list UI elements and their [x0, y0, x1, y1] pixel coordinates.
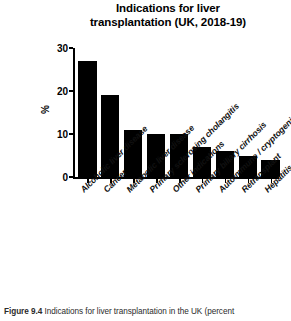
- y-axis-tick-label: 10: [57, 129, 68, 140]
- chart-title: Indications for liver transplantation (U…: [48, 2, 288, 29]
- figure-container: Indications for liver transplantation (U…: [0, 0, 291, 321]
- y-axis-line: [73, 48, 75, 177]
- y-axis-tick: [69, 47, 74, 49]
- y-axis-tick-label: 30: [57, 43, 68, 54]
- chart-title-line-1: Indications for liver: [48, 2, 288, 16]
- bar: [78, 61, 96, 177]
- y-axis-tick-label: 0: [62, 172, 68, 183]
- y-axis-tick-labels: 0102030: [40, 48, 68, 177]
- figure-number: Figure 9.4: [4, 307, 42, 316]
- figure-caption: Figure 9.4 Indications for liver transpl…: [4, 307, 291, 316]
- y-axis-tick: [69, 176, 74, 178]
- y-axis-tick: [69, 133, 74, 135]
- figure-caption-text: Indications for liver transplantation in…: [44, 307, 234, 316]
- y-axis-tick: [69, 90, 74, 92]
- chart-title-line-2: transplantation (UK, 2018-19): [48, 16, 288, 30]
- y-axis-tick-label: 20: [57, 86, 68, 97]
